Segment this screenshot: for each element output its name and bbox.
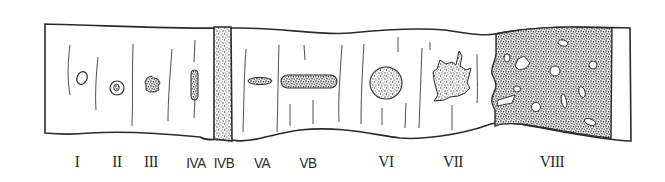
stage-label-iva: IVA — [186, 154, 205, 171]
stage-va-lesion — [248, 77, 272, 84]
stage-label-vii: VII — [443, 152, 463, 172]
stage-viii-region — [492, 27, 612, 138]
stage-label-ivb: IVB — [214, 154, 234, 171]
stage-label-vi: VI — [378, 152, 393, 172]
stage-label-ii: II — [112, 152, 121, 172]
stage-ii-lesion — [110, 81, 124, 95]
stage-label-vb: VB — [299, 154, 316, 171]
stage-vb-lesion — [281, 75, 337, 88]
stage-iva-lesion — [191, 70, 198, 100]
stage-vi-lesion — [370, 67, 402, 99]
stage-ivb-band — [214, 27, 232, 141]
diagram-canvas — [0, 0, 665, 182]
stage-label-viii: VIII — [540, 152, 565, 172]
stage-label-i: I — [75, 152, 80, 172]
stage-label-iii: III — [144, 152, 158, 172]
stage-label-va: VA — [254, 154, 270, 171]
lesion-stage-diagram: I II III IVA IVB VA VB VI VII VIII — [0, 0, 665, 182]
